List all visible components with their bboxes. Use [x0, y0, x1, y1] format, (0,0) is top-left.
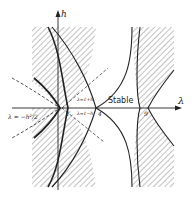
tick-label-9: 9 [144, 111, 148, 117]
line-label-1-plus-h: λ=1+h [77, 98, 93, 103]
h-axis-label: h [61, 10, 67, 19]
lambda-axis-label: λ [178, 96, 184, 106]
tick-label-4: 4 [98, 111, 102, 117]
line-label-1-minus-h: λ=1−h [77, 112, 93, 117]
h-axis-arrow-icon [56, 10, 61, 17]
tick-label-1: 1 [66, 111, 70, 117]
lambda-axis-arrow-icon [175, 106, 182, 111]
parabola-label: λ = −h²/2 [8, 114, 38, 120]
unstable-region-hatching [32, 27, 174, 187]
stability-chart [0, 0, 194, 197]
stable-region-label: Stable [108, 97, 133, 105]
